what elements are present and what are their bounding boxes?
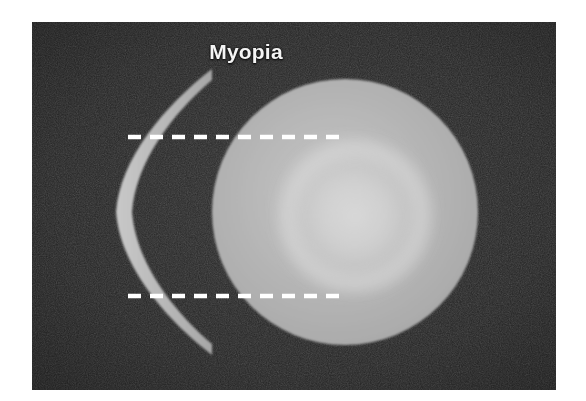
- concave-minus-lens: [116, 69, 212, 355]
- illustration-panel: Myopia: [32, 22, 556, 390]
- myopia-scene: [32, 22, 556, 390]
- retinal-glow: [271, 132, 439, 300]
- diagram-title: Myopia: [32, 40, 508, 64]
- figure-root: Myopia: [0, 0, 586, 401]
